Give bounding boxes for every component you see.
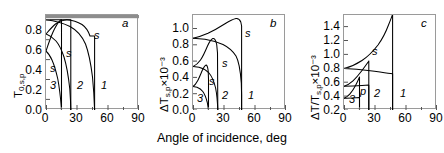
panel-b-curve-label-2: 2 <box>222 90 228 101</box>
panel-b-letter: b <box>270 17 276 29</box>
panel-c-curves <box>344 15 437 110</box>
panel-a-ytick-1: 0.2 <box>16 84 42 96</box>
panel-c-curve-label-1: 1 <box>400 88 406 99</box>
panel-c-curve-label-s: s <box>372 46 378 57</box>
panel-a-curve-label-1: 1 <box>101 80 107 91</box>
panel-c-curve-label-2: 2 <box>374 88 380 99</box>
panel-a-curves <box>46 15 139 110</box>
panel-b-ytick-3: 0.6 <box>163 55 189 67</box>
panel-a-ytick-2: 0.4 <box>16 64 42 76</box>
panel-b-curves <box>193 15 286 110</box>
panel-c-curve-label-p: p <box>360 86 366 97</box>
panel-a-curve-label-2: 2 <box>77 80 83 91</box>
panel-a-curve-label-s1: s <box>94 30 100 41</box>
panel-a-xtick-60: 60 <box>97 112 117 124</box>
panel-a-ytick-4: 0.8 <box>16 24 42 36</box>
panel-c-ytick-5: 1.2 <box>314 34 340 46</box>
panel-c-curve-label-3: 3 <box>349 94 355 105</box>
panel-c-ytick-4: 1.0 <box>314 48 340 60</box>
panel-a-curve-label-s3: s <box>50 63 56 74</box>
panel-a-ytick-3: 0.6 <box>16 44 42 56</box>
panel-a-letter: a <box>122 17 128 29</box>
figure-three-panel-plot: T0,s,p 0.0 0.2 0.4 0.6 0.8 <box>0 0 444 153</box>
panel-b-ytick-2: 0.4 <box>163 71 189 83</box>
panel-c-ytick-3: 0.8 <box>314 62 340 74</box>
panel-c-ytick-1: 0.4 <box>314 90 340 102</box>
panel-a-xtick-30: 30 <box>66 112 86 124</box>
panel-b-ytick-4: 0.8 <box>163 38 189 50</box>
panel-c-xtick-30: 30 <box>364 112 384 124</box>
panel-c-xtick-0: 0 <box>333 112 353 124</box>
panel-c-letter: c <box>421 17 427 29</box>
x-axis-title: Angle of incidence, deg <box>0 131 444 145</box>
panel-b-xtick-60: 60 <box>244 112 264 124</box>
panel-b-curve-label-s2: s <box>222 58 228 69</box>
panel-b-curve-label-1: 1 <box>248 90 254 101</box>
panel-b-ytick-5: 1.0 <box>163 22 189 34</box>
panel-b-xtick-30: 30 <box>213 112 233 124</box>
panel-c-xtick-60: 60 <box>395 112 415 124</box>
panel-a-curve-label-s2: s <box>66 48 72 59</box>
panel-b-xtick-0: 0 <box>182 112 202 124</box>
panel-b-xtick-90: 90 <box>275 112 295 124</box>
panel-a-xtick-0: 0 <box>35 112 55 124</box>
panel-c-ytick-6: 1.4 <box>314 20 340 32</box>
panel-b-curve-label-3: 3 <box>197 93 203 104</box>
panel-c-xtick-90: 90 <box>426 112 444 124</box>
panel-c-ytick-2: 0.6 <box>314 76 340 88</box>
panel-b-curve-label-s1: s <box>245 28 251 39</box>
panel-a-curve-label-3: 3 <box>50 80 56 91</box>
panel-b-ytick-1: 0.2 <box>163 88 189 100</box>
panel-b-curve-label-s3: s <box>209 76 215 87</box>
